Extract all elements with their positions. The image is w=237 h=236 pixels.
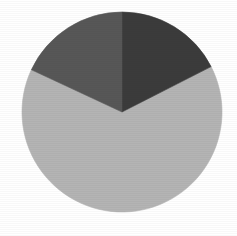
pie-slice-group — [22, 12, 222, 212]
pie-chart-figure — [0, 0, 237, 236]
pie-chart-svg — [0, 0, 237, 236]
